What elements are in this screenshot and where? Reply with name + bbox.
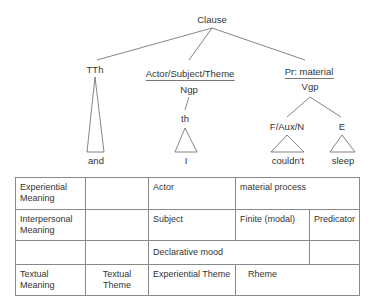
node-f-aux-n: F/Aux/N (270, 121, 304, 132)
node-pr-material: Pr: material (285, 66, 334, 79)
table-cell: Finite (modal) (236, 210, 310, 241)
leaf-and: and (88, 155, 104, 166)
node-tth: TTh (87, 64, 104, 75)
table-row: Interpersonal Meaning Subject Finite (mo… (16, 210, 360, 241)
table-cell: Predicator (310, 210, 360, 241)
node-th: th (181, 113, 189, 124)
table-row: Experiential Meaning Actor material proc… (16, 178, 360, 210)
table-row: Textual Meaning Textual Theme Experienti… (16, 265, 360, 296)
table-cell (86, 178, 149, 210)
table-cell: Textual Theme (86, 265, 149, 296)
row-label (16, 241, 86, 265)
table-row: Declarative mood (16, 241, 360, 265)
table-cell: material process (236, 178, 360, 210)
node-vgp: Vgp (302, 81, 319, 92)
table-cell (310, 241, 360, 265)
node-clause: Clause (197, 14, 227, 25)
node-ngp: Ngp (180, 84, 197, 95)
table-cell: Declarative mood (149, 241, 310, 265)
node-actor-subject-theme: Actor/Subject/Theme (146, 68, 235, 81)
table-cell (86, 210, 149, 241)
table-cell: Rheme (236, 265, 360, 296)
table-cell (86, 241, 149, 265)
leaf-couldnt: couldn't (272, 155, 304, 166)
leaf-i: I (185, 155, 188, 166)
function-table: Experiential Meaning Actor material proc… (15, 177, 360, 296)
table-cell: Subject (149, 210, 236, 241)
table-cell: Experiential Theme (149, 265, 236, 296)
row-label: Interpersonal Meaning (16, 210, 86, 241)
node-e: E (339, 121, 345, 132)
row-label: Textual Meaning (16, 265, 86, 296)
row-label: Experiential Meaning (16, 178, 86, 210)
leaf-sleep: sleep (332, 155, 355, 166)
table-cell: Actor (149, 178, 236, 210)
